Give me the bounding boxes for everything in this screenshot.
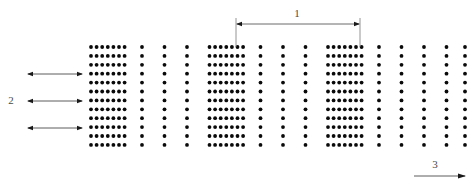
flow-2-arrowhead-left (27, 126, 33, 130)
flow-2-arrowhead-right (77, 99, 83, 103)
flow-2-arrowhead-right (77, 72, 83, 76)
flow-2-label: 2 (8, 94, 14, 106)
annotation-layer: 1 2 3 (0, 0, 471, 187)
axis-3-label: 3 (432, 158, 438, 170)
dimension-1-group: 1 (236, 7, 360, 47)
flow-2-arrowhead-right (77, 126, 83, 130)
dimension-1-label: 1 (294, 7, 300, 19)
flow-2-arrowhead-left (27, 99, 33, 103)
dimension-1-arrowhead-right (354, 22, 360, 26)
axis-3-group: 3 (414, 158, 466, 179)
dot-lattice-figure: 1 2 3 (0, 0, 471, 187)
axis-3-arrowhead (458, 173, 466, 178)
dimension-1-arrowhead-left (236, 22, 242, 26)
flow-2-arrowhead-left (27, 72, 33, 76)
flow-2-arrow-group (27, 72, 83, 130)
